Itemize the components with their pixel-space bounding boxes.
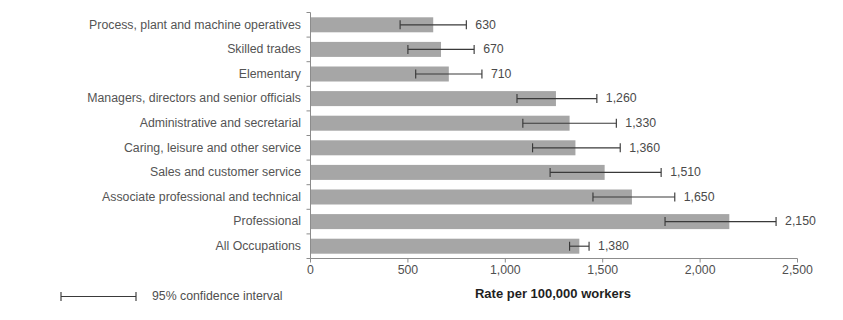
legend-label: 95% confidence interval <box>152 289 283 303</box>
x-axis-tick-label: 1,500 <box>587 263 618 277</box>
bar <box>311 190 632 205</box>
bar-value-label: 1,650 <box>684 190 715 204</box>
x-axis-tick-label: 2,500 <box>782 263 813 277</box>
x-axis-tick-label: 0 <box>307 263 314 277</box>
bar-chart: Process, plant and machine operativesSki… <box>0 0 843 320</box>
x-axis-tick-label: 1,000 <box>490 263 521 277</box>
x-axis-tick-label: 2,000 <box>685 263 716 277</box>
chart-canvas: Process, plant and machine operativesSki… <box>0 0 843 320</box>
bar-value-label: 670 <box>483 42 504 56</box>
bar-value-label: 710 <box>491 67 512 81</box>
bar-value-label: 630 <box>475 18 496 32</box>
x-axis-tick-label: 500 <box>398 263 419 277</box>
bar-value-label: 2,150 <box>785 214 816 228</box>
category-label: Caring, leisure and other service <box>124 141 301 155</box>
bar <box>311 239 580 254</box>
bar-value-label: 1,380 <box>598 239 629 253</box>
category-label: Elementary <box>239 67 302 81</box>
category-label: Associate professional and technical <box>102 190 301 204</box>
category-label: All Occupations <box>216 239 301 253</box>
category-label: Skilled trades <box>227 42 301 56</box>
category-label: Process, plant and machine operatives <box>89 18 301 32</box>
x-axis-title: Rate per 100,000 workers <box>475 286 631 301</box>
category-label: Administrative and secretarial <box>140 116 301 130</box>
bar-value-label: 1,260 <box>606 91 637 105</box>
bar-value-label: 1,330 <box>625 116 656 130</box>
category-label: Sales and customer service <box>150 165 301 179</box>
category-label: Managers, directors and senior officials <box>87 91 301 105</box>
category-label: Professional <box>233 214 301 228</box>
bar-value-label: 1,510 <box>670 165 701 179</box>
bar-value-label: 1,360 <box>629 141 660 155</box>
